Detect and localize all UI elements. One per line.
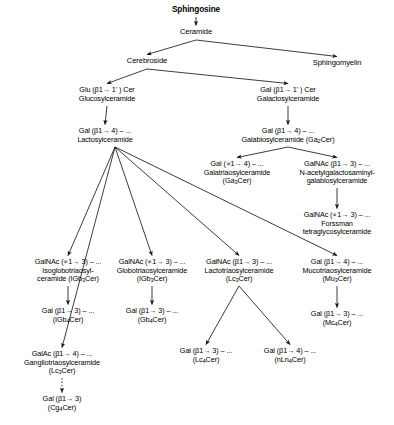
node-line: (Lc4Cer) (180, 356, 232, 365)
node-cerebroside: Cerebroside (127, 57, 167, 66)
node-mc4cer: Gal (β1→ 3) – ... (Mc4Cer) (311, 310, 363, 328)
node-line: Glucosylceramide (79, 95, 135, 104)
node-mucotriaosylceramide: Gal (β1→ 4) – ... Mucotriaosylceramide (… (303, 258, 372, 284)
node-gb4cer: Gal (β1→ 3) – ... (Gb4Cer) (126, 307, 178, 325)
node-line: (Lc3Cer) (205, 275, 274, 284)
edge-lactosylceramide-to-isoglobotriaosylceramide (68, 147, 115, 256)
node-line: (IGb3Cer) (117, 275, 188, 284)
edge-galabiosylceramide-to-galatriaosylceramide (237, 147, 288, 158)
node-line: ceramide (IGb3Cer) (35, 275, 102, 284)
node-line: Sphingosine (172, 5, 220, 15)
node-igb4cer: Gal (β1→ 3) – ... (IGb4Cer) (42, 307, 94, 325)
edge-cerebroside-to-galactosylceramide (147, 69, 288, 84)
node-line: (Gb4Cer) (126, 316, 178, 325)
node-nacetylgalactosaminyl: GalNAc (β1→ 3) – ... N-acetylgalactosami… (299, 160, 374, 186)
node-line: galabiosylceramide (299, 177, 374, 186)
node-gangliotriaosylceramide: GalAc (β1→ 4) – ... Gangliotriaosylceram… (24, 350, 100, 376)
node-line: (Lc3Cer) (24, 367, 100, 376)
node-line: Gal (β1→ 3) – ... (42, 307, 94, 316)
node-line: tetraglycosylceramide (303, 228, 371, 237)
node-lactosylceramide: Gal (β1→ 4) – ... Lactosylceramide (77, 127, 132, 144)
edge-ceramide-to-sphingomyelin (196, 40, 337, 57)
edge-cerebroside-to-glucosylceramide (107, 69, 147, 84)
pathway-diagram: Sphingosine Ceramide Cerebroside Sphingo… (0, 0, 394, 425)
edge-galabiosylceramide-to-nacetylgalactosaminyl (288, 147, 337, 158)
node-galabiosylceramide: Gal (β1→ 4) – ... Galabiosylceramide (Ga… (242, 127, 335, 145)
node-line: Cerebroside (127, 57, 167, 66)
node-line: Galabiosylceramide (Ga2Cer) (242, 136, 335, 145)
node-ceramide: Ceramide (180, 28, 212, 37)
node-galatriaosylceramide: Gal (∝1→ 4) – ... Galatriaosylceramide (… (204, 160, 271, 186)
node-line: Ceramide (180, 28, 212, 37)
node-line: Galactosylceramide (257, 95, 319, 104)
node-lactotriaosylceramide: GalNAc (β1→ 3) – ... Lactotriaosylcerami… (205, 258, 274, 284)
node-line: Lactosylceramide (77, 136, 132, 145)
node-line: (Mc4Cer) (311, 319, 363, 328)
node-line: (Ga3Cer) (204, 177, 271, 186)
node-galactosylceramide: Gal (β1→ 1' ) Cer Galactosylceramide (257, 86, 319, 103)
node-sphingosine: Sphingosine (172, 5, 220, 15)
node-globotriaosylceramide: GalNAc (∝1→ 3) – ... Globotriaosylcerami… (117, 258, 188, 284)
node-lc4cer: Gal (β1→ 3) – ... (Lc4Cer) (180, 347, 232, 365)
node-nln4cer: Gal (β1→ 4) – ... (nLn4Cer) (264, 347, 316, 365)
node-line: Gal (β1→ 4) – ... (264, 347, 316, 356)
edge-lactosylceramide-to-globotriaosylceramide (115, 147, 152, 256)
edge-lactotriaosylceramide-to-lc4cer (206, 286, 239, 345)
node-line: (Mu3Cer) (303, 275, 372, 284)
node-line: Globotriaosylceramide (117, 267, 188, 276)
edge-ceramide-to-cerebroside (147, 40, 196, 55)
edge-glucosylceramide-to-lactosylceramide (105, 106, 107, 125)
edge-lactotriaosylceramide-to-nln4cer (239, 286, 290, 345)
node-forssman: GalNAc (∝1→ 3) – ... Forssman tetraglyco… (303, 211, 371, 237)
node-line: (IGb4Cer) (42, 316, 94, 325)
node-line: (Cg4Cer) (43, 404, 82, 413)
node-line: Sphingomyelin (313, 59, 362, 68)
node-glucosylceramide: Glu (β1→ 1' ) Cer Glucosylceramide (79, 86, 135, 103)
node-isoglobotriaosylceramide: GalNAc (∝1→ 3) – ... Isoglobotriaosyl- c… (35, 258, 102, 284)
node-line: (nLn4Cer) (264, 356, 316, 365)
node-cg4cer: Gal (β1→ 3) (Cg4Cer) (43, 395, 82, 413)
node-sphingomyelin: Sphingomyelin (313, 59, 362, 68)
